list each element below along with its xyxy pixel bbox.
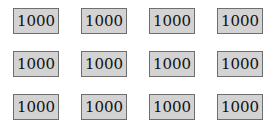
grid-cell-r3-c2[interactable]: 1000 bbox=[81, 94, 127, 120]
grid-cell-r2-c3[interactable]: 1000 bbox=[149, 51, 195, 77]
grid-cell-r1-c4[interactable]: 1000 bbox=[217, 8, 263, 34]
grid-cell-r3-c3[interactable]: 1000 bbox=[149, 94, 195, 120]
grid-cell-r3-c4[interactable]: 1000 bbox=[217, 94, 263, 120]
grid-cell-r3-c1[interactable]: 1000 bbox=[13, 94, 59, 120]
grid-cell-r2-c2[interactable]: 1000 bbox=[81, 51, 127, 77]
grid-cell-r2-c4[interactable]: 1000 bbox=[217, 51, 263, 77]
grid-cell-r2-c1[interactable]: 1000 bbox=[13, 51, 59, 77]
value-grid: 1000 1000 1000 1000 1000 1000 1000 1000 … bbox=[0, 0, 277, 131]
grid-cell-r1-c1[interactable]: 1000 bbox=[13, 8, 59, 34]
grid-cell-r1-c2[interactable]: 1000 bbox=[81, 8, 127, 34]
grid-cell-r1-c3[interactable]: 1000 bbox=[149, 8, 195, 34]
